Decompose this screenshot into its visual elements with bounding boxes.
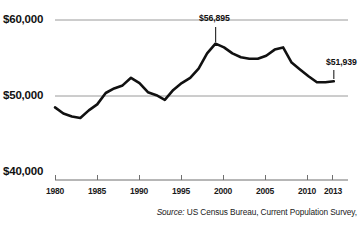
data-line-median-income [55, 44, 334, 118]
x-tick-label-2010: 2010 [298, 186, 316, 196]
x-tick-label-2005: 2005 [256, 186, 274, 196]
x-tick-label-1980: 1980 [46, 186, 64, 196]
x-tick-label-1990: 1990 [130, 186, 148, 196]
x-tick-label-1985: 1985 [88, 186, 106, 196]
source-text: US Census Bureau, Current Population Sur… [187, 207, 357, 217]
x-axis-ticks [56, 175, 333, 180]
source-note: Source: US Census Bureau, Current Popula… [0, 207, 357, 217]
x-tick-label-2013: 2013 [324, 186, 342, 196]
source-prefix: Source: [157, 207, 185, 217]
x-tick-label-2000: 2000 [214, 186, 232, 196]
income-line-chart: $60,000 $50,000 $40,000 1980 1985 1990 1… [0, 0, 360, 227]
last-value-annotation: $51,939 [326, 57, 357, 67]
x-tick-label-1995: 1995 [172, 186, 190, 196]
peak-value-annotation: $56,895 [199, 13, 230, 23]
